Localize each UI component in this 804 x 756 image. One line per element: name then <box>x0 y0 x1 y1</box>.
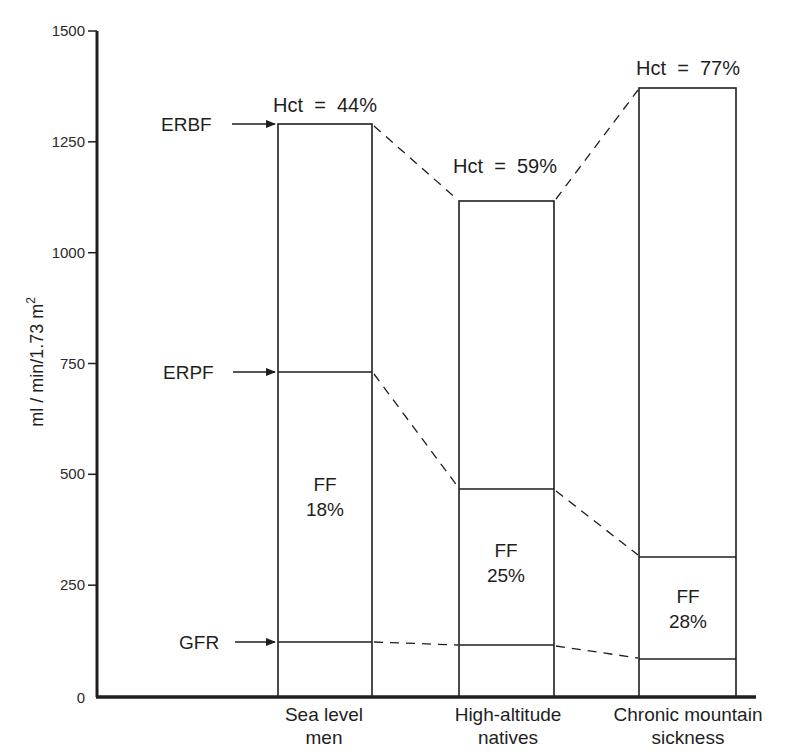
category-label-high-altitude-line1: High-altitude <box>455 704 562 725</box>
y-axis: 1500 1250 1000 750 500 250 0 ml / min/1.… <box>24 22 97 706</box>
category-label-sea-level-line1: Sea level <box>285 704 363 725</box>
y-tick-label-1500: 1500 <box>52 22 85 39</box>
ff-value-chronic: 28% <box>669 611 707 632</box>
y-tick-label-750: 750 <box>60 355 85 372</box>
ff-label-sea-level: FF <box>313 474 336 495</box>
category-label-high-altitude-line2: natives <box>478 727 538 748</box>
y-tick-label-1250: 1250 <box>52 133 85 150</box>
erpf-label: ERPF <box>163 362 214 383</box>
gfr-label: GFR <box>179 632 219 653</box>
chart-canvas: 1500 1250 1000 750 500 250 0 ml / min/1.… <box>0 0 804 756</box>
erbf-connector-2-3 <box>556 90 638 199</box>
y-axis-label-superscript: 2 <box>24 297 38 304</box>
erbf-label: ERBF <box>161 114 212 135</box>
gfr-connector-1-2 <box>374 642 458 645</box>
erpf-connector-1-2 <box>374 374 458 487</box>
category-label-chronic-line1: Chronic mountain <box>614 704 763 725</box>
y-tick-label-250: 250 <box>60 576 85 593</box>
gfr-connector-2-3 <box>556 646 638 658</box>
ff-value-sea-level: 18% <box>306 499 344 520</box>
ff-value-high-altitude: 25% <box>487 565 525 586</box>
y-axis-label: ml / min/1.73 m2 <box>24 297 47 427</box>
bar-sea-level-men <box>278 124 372 697</box>
y-tick-label-1000: 1000 <box>52 244 85 261</box>
hct-label-sea-level: Hct = 44% <box>273 94 377 116</box>
ff-label-chronic: FF <box>676 586 699 607</box>
hct-label-high-altitude: Hct = 59% <box>453 155 557 177</box>
erbf-connector-1-2 <box>374 126 458 200</box>
y-tick-label-0: 0 <box>77 689 85 706</box>
ff-label-high-altitude: FF <box>494 540 517 561</box>
bar-outline <box>278 124 372 697</box>
arrow-annotations: ERBF ERPF GFR <box>161 114 275 653</box>
hct-label-chronic: Hct = 77% <box>636 57 740 79</box>
erpf-connector-2-3 <box>556 491 638 555</box>
y-tick-label-500: 500 <box>60 465 85 482</box>
bar-outline <box>459 201 554 697</box>
category-label-chronic-line2: sickness <box>652 727 725 748</box>
bar-high-altitude-natives <box>459 201 554 697</box>
category-label-sea-level-line2: men <box>306 727 343 748</box>
